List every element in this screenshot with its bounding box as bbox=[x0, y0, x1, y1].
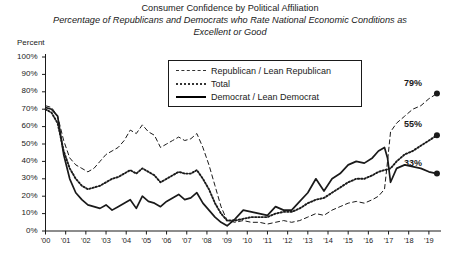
x-axis-tick-label: '19 bbox=[418, 236, 440, 245]
legend-swatch-dotted-icon bbox=[176, 79, 206, 89]
y-axis-tick-label: 20% bbox=[8, 191, 38, 200]
legend-item-total[interactable]: Total bbox=[169, 77, 361, 90]
y-axis-tick-label: 50% bbox=[8, 139, 38, 148]
y-axis-tick-label: 30% bbox=[8, 173, 38, 182]
y-axis-tick-label: 100% bbox=[8, 52, 38, 61]
series-end-label: 33% bbox=[404, 158, 422, 168]
x-axis-tick-label: '05 bbox=[135, 236, 157, 245]
x-axis-tick-label: '10 bbox=[236, 236, 258, 245]
x-axis-tick-label: '06 bbox=[156, 236, 178, 245]
x-axis-tick-label: '02 bbox=[75, 236, 97, 245]
y-axis-tick-label: 0% bbox=[8, 226, 38, 235]
x-axis-tick-label: '01 bbox=[55, 236, 77, 245]
series-line-1 bbox=[46, 109, 437, 220]
legend-label-democrat: Democrat / Lean Democrat bbox=[211, 92, 319, 102]
x-axis-tick-label: '09 bbox=[216, 236, 238, 245]
x-axis-tick-label: '13 bbox=[297, 236, 319, 245]
x-axis-tick-label: '07 bbox=[176, 236, 198, 245]
y-axis-tick-label: 60% bbox=[8, 121, 38, 130]
series-endpoint-marker bbox=[434, 132, 440, 138]
x-axis-tick-label: '03 bbox=[95, 236, 117, 245]
legend: Republican / Lean Republican Total Democ… bbox=[168, 60, 362, 107]
legend-label-total: Total bbox=[211, 79, 230, 89]
series-end-label: 79% bbox=[404, 78, 422, 88]
series-endpoint-marker bbox=[434, 91, 440, 97]
legend-item-republican[interactable]: Republican / Lean Republican bbox=[169, 64, 361, 77]
x-axis-tick-label: '18 bbox=[398, 236, 420, 245]
series-line-2 bbox=[46, 107, 437, 225]
y-axis-tick-label: 90% bbox=[8, 69, 38, 78]
x-axis-tick-label: '04 bbox=[115, 236, 137, 245]
x-axis-tick-label: '11 bbox=[256, 236, 278, 245]
plot-area bbox=[0, 0, 453, 262]
x-axis-tick-label: '17 bbox=[378, 236, 400, 245]
series-end-label: 55% bbox=[404, 119, 422, 129]
legend-item-democrat[interactable]: Democrat / Lean Democrat bbox=[169, 90, 361, 103]
x-axis-tick-label: '14 bbox=[317, 236, 339, 245]
y-axis-tick-label: 70% bbox=[8, 104, 38, 113]
legend-swatch-solid-icon bbox=[176, 92, 206, 102]
x-axis-tick-label: '16 bbox=[357, 236, 379, 245]
series-endpoint-marker bbox=[434, 171, 440, 177]
y-axis-tick-label: 10% bbox=[8, 208, 38, 217]
y-axis-tick-label: 40% bbox=[8, 156, 38, 165]
x-axis-tick-label: '15 bbox=[337, 236, 359, 245]
x-axis-tick-label: '00 bbox=[35, 236, 57, 245]
y-axis-tick-label: 80% bbox=[8, 86, 38, 95]
legend-label-republican: Republican / Lean Republican bbox=[211, 66, 331, 76]
legend-swatch-dashed-icon bbox=[176, 66, 206, 76]
chart-container: Consumer Confidence by Political Affilia… bbox=[0, 0, 453, 262]
x-axis-tick-label: '08 bbox=[196, 236, 218, 245]
series-line-0 bbox=[46, 94, 437, 225]
x-axis-tick-label: '12 bbox=[277, 236, 299, 245]
